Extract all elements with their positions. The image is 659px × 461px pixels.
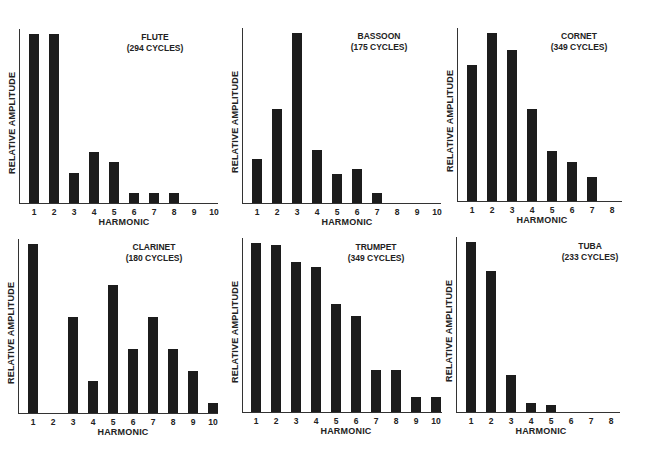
x-axis-label: HARMONIC xyxy=(307,217,387,227)
bar-harmonic-1 xyxy=(251,243,261,412)
bar-harmonic-6 xyxy=(352,169,362,203)
instrument-name: CORNET xyxy=(529,31,629,42)
x-axis-label: HARMONIC xyxy=(306,426,386,436)
x-tick-label: 5 xyxy=(542,205,562,215)
x-tick-label: 8 xyxy=(602,205,622,215)
x-tick-label: 3 xyxy=(63,417,83,427)
x-tick-label: 7 xyxy=(143,417,163,427)
x-axis-label: HARMONIC xyxy=(502,215,582,225)
x-tick-label: 3 xyxy=(501,416,521,426)
frequency-subtitle: (233 CYCLES) xyxy=(540,252,640,263)
bar-harmonic-2 xyxy=(272,109,282,203)
x-tick-label: 10 xyxy=(427,207,447,217)
x-tick-label: 6 xyxy=(124,207,144,217)
y-axis-label: RELATIVE AMPLITUDE xyxy=(7,64,19,174)
bar-harmonic-2 xyxy=(486,271,496,412)
x-tick-label: 3 xyxy=(502,205,522,215)
x-tick-label: 3 xyxy=(287,207,307,217)
bar-harmonic-6 xyxy=(351,316,361,412)
x-tick-label: 8 xyxy=(164,207,184,217)
x-tick-label: 4 xyxy=(83,417,103,427)
x-axis-label: HARMONIC xyxy=(501,426,581,436)
x-axis xyxy=(18,413,218,414)
x-tick-label: 5 xyxy=(327,207,347,217)
bar-harmonic-9 xyxy=(411,397,421,412)
bar-harmonic-2 xyxy=(487,33,497,201)
bar-harmonic-1 xyxy=(467,65,477,201)
x-tick-label: 10 xyxy=(204,207,224,217)
instrument-name: CLARINET xyxy=(104,242,204,253)
x-tick-label: 7 xyxy=(366,416,386,426)
x-axis-label: HARMONIC xyxy=(83,427,163,437)
instrument-name: TRUMPET xyxy=(326,242,426,253)
chart-title: FLUTE(294 CYCLES) xyxy=(105,32,205,54)
x-tick-label: 2 xyxy=(481,416,501,426)
bar-harmonic-4 xyxy=(526,403,536,412)
x-tick-label: 7 xyxy=(144,207,164,217)
x-axis xyxy=(19,203,218,204)
bar-harmonic-5 xyxy=(332,174,342,203)
y-axis-label: RELATIVE AMPLITUDE xyxy=(6,274,18,384)
x-axis xyxy=(242,203,441,204)
bar-harmonic-3 xyxy=(292,33,302,203)
y-axis-label: RELATIVE AMPLITUDE xyxy=(445,62,457,172)
x-tick-label: 1 xyxy=(247,207,267,217)
x-tick-label: 6 xyxy=(346,416,366,426)
bar-harmonic-7 xyxy=(149,193,159,203)
frequency-subtitle: (349 CYCLES) xyxy=(326,253,426,264)
x-tick-label: 2 xyxy=(44,207,64,217)
y-axis-label: RELATIVE AMPLITUDE xyxy=(230,273,242,383)
bar-harmonic-8 xyxy=(168,349,178,413)
frequency-subtitle: (349 CYCLES) xyxy=(529,42,629,53)
bar-harmonic-1 xyxy=(28,244,38,413)
x-tick-label: 7 xyxy=(582,205,602,215)
y-axis xyxy=(18,239,19,413)
x-tick-label: 9 xyxy=(406,416,426,426)
x-tick-label: 6 xyxy=(123,417,143,427)
x-tick-label: 5 xyxy=(326,416,346,426)
x-tick-label: 2 xyxy=(482,205,502,215)
bar-harmonic-4 xyxy=(527,109,537,201)
x-axis-label: HARMONIC xyxy=(84,217,164,227)
bar-harmonic-6 xyxy=(567,162,577,201)
bar-harmonic-9 xyxy=(188,371,198,413)
bar-harmonic-4 xyxy=(311,267,321,412)
x-tick-label: 1 xyxy=(246,416,266,426)
bar-harmonic-4 xyxy=(88,381,98,413)
bar-harmonic-1 xyxy=(29,34,39,203)
x-tick-label: 8 xyxy=(601,416,621,426)
bar-harmonic-2 xyxy=(271,245,281,412)
x-tick-label: 2 xyxy=(266,416,286,426)
x-tick-label: 3 xyxy=(286,416,306,426)
x-tick-label: 4 xyxy=(306,416,326,426)
frequency-subtitle: (180 CYCLES) xyxy=(104,253,204,264)
x-tick-label: 7 xyxy=(581,416,601,426)
y-axis xyxy=(456,237,457,412)
bar-harmonic-6 xyxy=(129,193,139,203)
y-axis xyxy=(242,238,243,412)
bar-harmonic-3 xyxy=(68,317,78,413)
x-tick-label: 2 xyxy=(267,207,287,217)
bar-harmonic-7 xyxy=(587,177,597,201)
x-tick-label: 8 xyxy=(163,417,183,427)
bar-harmonic-5 xyxy=(547,151,557,201)
x-tick-label: 6 xyxy=(347,207,367,217)
bar-harmonic-4 xyxy=(89,152,99,203)
chart-title: TUBA(233 CYCLES) xyxy=(540,241,640,263)
instrument-name: TUBA xyxy=(540,241,640,252)
chart-title: TRUMPET(349 CYCLES) xyxy=(326,242,426,264)
chart-title: CORNET(349 CYCLES) xyxy=(529,31,629,53)
bar-harmonic-5 xyxy=(546,405,556,412)
bar-harmonic-8 xyxy=(169,193,179,203)
x-tick-label: 4 xyxy=(307,207,327,217)
bar-harmonic-7 xyxy=(372,193,382,203)
bar-harmonic-5 xyxy=(331,304,341,412)
y-axis xyxy=(19,29,20,203)
x-tick-label: 5 xyxy=(103,417,123,427)
x-axis xyxy=(242,412,442,413)
x-tick-label: 5 xyxy=(541,416,561,426)
bar-harmonic-2 xyxy=(49,34,59,203)
x-tick-label: 8 xyxy=(387,207,407,217)
bar-harmonic-6 xyxy=(128,349,138,413)
x-axis xyxy=(456,412,620,413)
